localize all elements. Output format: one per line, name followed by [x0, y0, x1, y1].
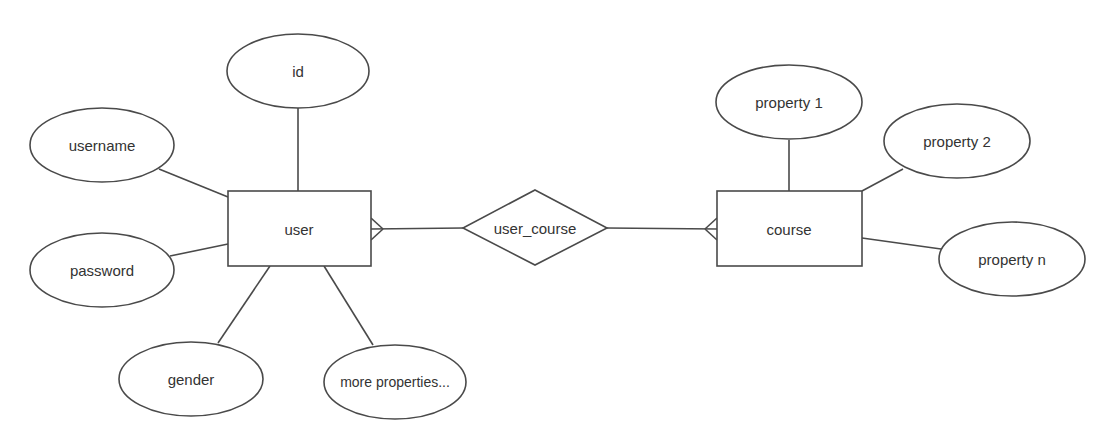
- attribute-more-properties-label: more properties...: [340, 374, 450, 390]
- attribute-password[interactable]: password: [30, 233, 174, 307]
- attribute-property-n-label: property n: [978, 251, 1046, 268]
- relationship-user-course-label: user_course: [494, 220, 577, 237]
- entity-user-label: user: [284, 221, 313, 238]
- edge-usercourse-course: [607, 218, 717, 240]
- attribute-username[interactable]: username: [30, 108, 174, 182]
- attribute-id[interactable]: id: [227, 34, 369, 108]
- attribute-property-1[interactable]: property 1: [716, 65, 862, 139]
- edge-user-username: [159, 169, 228, 197]
- attribute-username-label: username: [69, 137, 136, 154]
- edge-course-property2: [862, 169, 903, 191]
- attribute-property-1-label: property 1: [755, 94, 823, 111]
- entity-user[interactable]: user: [228, 191, 371, 266]
- entity-course-label: course: [766, 221, 811, 238]
- edge-user-password: [170, 244, 228, 256]
- attribute-password-label: password: [70, 262, 134, 279]
- attribute-property-n[interactable]: property n: [939, 222, 1085, 296]
- edge-course-propertyn: [862, 238, 941, 249]
- attribute-property-2-label: property 2: [923, 133, 991, 150]
- edge-user-usercourse: [371, 218, 463, 240]
- attribute-gender-label: gender: [168, 371, 215, 388]
- attribute-more-properties[interactable]: more properties...: [324, 345, 466, 419]
- edge-user-gender: [218, 266, 270, 343]
- attribute-id-label: id: [292, 63, 304, 80]
- attribute-property-2[interactable]: property 2: [884, 104, 1030, 178]
- edge-user-more: [324, 266, 373, 345]
- entity-course[interactable]: course: [717, 191, 862, 266]
- er-diagram-canvas: id username password gender more propert…: [0, 0, 1113, 446]
- relationship-user-course[interactable]: user_course: [463, 190, 607, 265]
- attribute-gender[interactable]: gender: [119, 342, 263, 416]
